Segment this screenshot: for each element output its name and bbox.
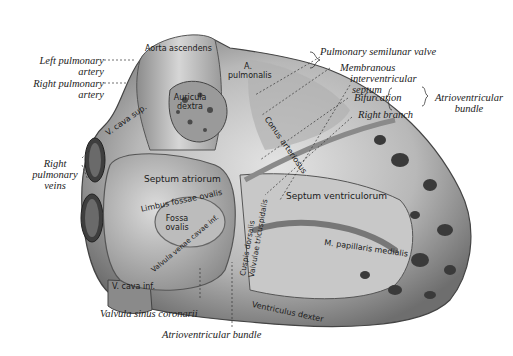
label-valvula-sinus-coronarii: Valvula sinus coronarii xyxy=(100,308,198,319)
label-atrioventricular-bundle: Atrioventricular bundle xyxy=(162,329,261,340)
label-left-pulmonary-artery: Left pulmonary artery xyxy=(20,55,104,77)
label-line: artery xyxy=(20,66,104,77)
label-line: Fossa xyxy=(152,214,202,223)
label-line: Right xyxy=(30,158,80,169)
label-line: Auricula xyxy=(165,93,215,102)
label-auricula-dextra: Auricula dextra xyxy=(165,93,215,111)
label-right-pulmonary-veins: Right pulmonary veins xyxy=(30,158,80,191)
label-line: artery xyxy=(14,89,104,100)
label-line: Left pulmonary xyxy=(20,55,104,66)
label-bifurcation: Bifurcation xyxy=(354,92,401,103)
label-line: veins xyxy=(30,180,80,191)
label-line: Membranous xyxy=(340,62,417,73)
label-atrioventricular-bundle-group: Atrioventricular bundle xyxy=(426,92,512,114)
label-line: Right pulmonary xyxy=(14,78,104,89)
label-v-cava-inferior: V. cava inf. xyxy=(112,282,155,291)
label-line: Atrioventricular xyxy=(426,92,512,103)
label-line: pulmonalis xyxy=(228,71,268,80)
label-line: pulmonary xyxy=(30,169,80,180)
label-right-pulmonary-artery: Right pulmonary artery xyxy=(14,78,104,100)
label-line: interventricular xyxy=(340,73,417,84)
label-septum-atriorum: Septum atriorum xyxy=(144,175,221,184)
label-membranous-interventricular-septum: Membranous interventricular septum xyxy=(340,62,417,95)
label-line: A. xyxy=(228,62,268,71)
anatomical-figure: Left pulmonary artery Right pulmonary ar… xyxy=(0,0,513,356)
label-line: dextra xyxy=(165,102,215,111)
label-right-branch: Right branch xyxy=(358,109,413,120)
label-pulmonary-semilunar-valve: Pulmonary semilunar valve xyxy=(320,46,436,57)
label-line: bundle xyxy=(426,103,512,114)
label-aorta-ascendens: Aorta ascendens xyxy=(145,44,212,53)
label-a-pulmonalis: A. pulmonalis xyxy=(228,62,268,80)
label-septum-ventriculorum: Septum ventriculorum xyxy=(286,192,387,201)
